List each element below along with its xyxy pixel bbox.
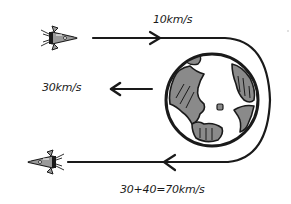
speck (287, 30, 289, 32)
globe-icon (166, 54, 258, 146)
gravity-assist-diagram: 10km/s 30km/s 30+40=70km/s (0, 0, 291, 204)
incoming-speed-label: 10km/s (153, 13, 192, 26)
planet-speed-label: 30km/s (42, 81, 81, 94)
incoming-rocket-icon (41, 26, 77, 50)
outgoing-speed-label: 30+40=70km/s (120, 183, 205, 196)
planet-motion-arrow-icon (111, 83, 152, 95)
outgoing-rocket-icon (28, 150, 64, 174)
diagram-canvas (0, 0, 291, 204)
